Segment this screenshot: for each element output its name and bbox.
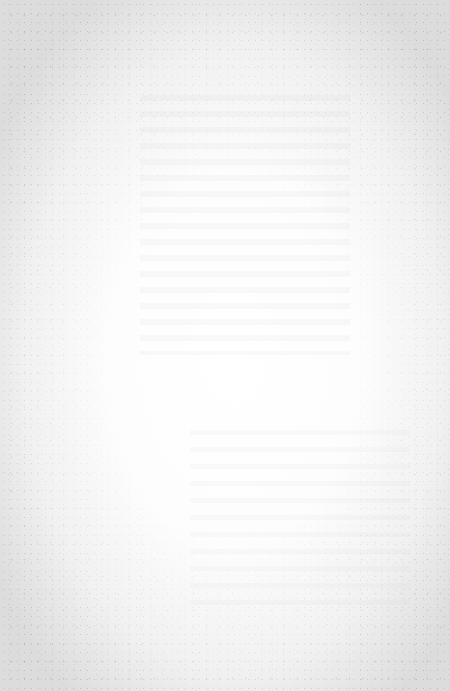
faint-bleed-through-lower: [190, 430, 410, 610]
faint-bleed-through-upper: [140, 95, 350, 355]
blank-document-page: [0, 0, 450, 691]
